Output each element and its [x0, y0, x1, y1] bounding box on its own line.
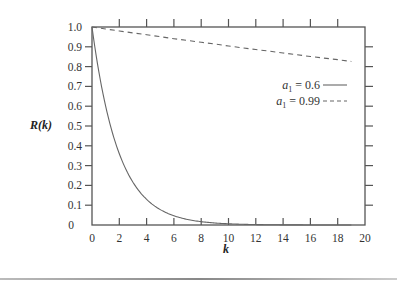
y-tick-label: 0.3	[68, 160, 83, 172]
x-tick-label: 16	[305, 232, 317, 244]
x-tick-label: 20	[359, 232, 371, 244]
y-tick-label: 0.1	[68, 199, 83, 211]
y-tick-label: 0.7	[68, 80, 83, 92]
y-tick-label: 0.9	[68, 41, 83, 53]
y-tick-label: 0.5	[68, 120, 83, 132]
legend-label: a1 = 0.99	[276, 94, 320, 110]
bottom-rule-divider	[0, 278, 397, 280]
series-line-a1-0-99	[92, 27, 351, 61]
y-axis-title: R(k)	[29, 118, 52, 132]
y-tick-label: 0.8	[68, 61, 83, 73]
data-series	[92, 27, 351, 225]
x-tick-label: 14	[277, 232, 289, 244]
plot-border	[92, 27, 365, 225]
chart: 0246810121416182000.10.20.30.40.50.60.70…	[0, 0, 397, 281]
legend: a1 = 0.6a1 = 0.99	[276, 78, 347, 110]
y-tick-label: 1.0	[68, 21, 83, 33]
x-axis-title: k	[223, 242, 229, 256]
x-tick-label: 0	[89, 232, 95, 244]
x-tick-label: 2	[116, 232, 122, 244]
y-tick-label: 0.6	[68, 100, 83, 112]
x-tick-label: 18	[332, 232, 344, 244]
axis-ticks	[85, 19, 373, 225]
x-tick-label: 4	[144, 232, 150, 244]
x-tick-label: 6	[171, 232, 177, 244]
series-line-a1-0-6	[92, 27, 351, 225]
y-tick-label: 0	[68, 219, 74, 231]
y-tick-label: 0.4	[68, 140, 83, 152]
x-tick-label: 8	[198, 232, 204, 244]
y-tick-label: 0.2	[68, 179, 83, 191]
legend-label: a1 = 0.6	[282, 78, 320, 94]
tick-labels: 0246810121416182000.10.20.30.40.50.60.70…	[68, 21, 371, 244]
x-tick-label: 12	[250, 232, 262, 244]
plot-frame	[92, 27, 365, 225]
